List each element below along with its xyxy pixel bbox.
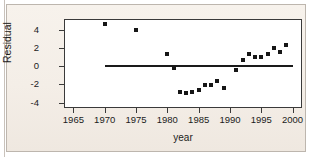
residual-plot-figure: Residual 420-2-4 19651970197519801985199…	[0, 0, 314, 157]
data-point	[209, 83, 213, 87]
data-point	[253, 55, 257, 59]
data-point	[241, 58, 245, 62]
data-point	[266, 52, 270, 56]
data-point	[272, 46, 276, 50]
data-point	[203, 83, 207, 87]
data-point	[103, 22, 107, 26]
y-tick-label: 2	[34, 43, 39, 53]
x-tick	[105, 108, 106, 113]
data-point	[234, 68, 238, 72]
x-tick	[261, 108, 262, 113]
x-tick	[199, 108, 200, 113]
data-point	[259, 55, 263, 59]
figure-panel: Residual 420-2-4 19651970197519801985199…	[6, 4, 306, 152]
x-tick	[73, 108, 74, 113]
x-tick	[136, 108, 137, 113]
x-tick	[230, 108, 231, 113]
data-point	[165, 52, 169, 56]
x-tick	[167, 108, 168, 113]
data-point	[247, 52, 251, 56]
data-point	[134, 28, 138, 32]
data-point	[197, 88, 201, 92]
plot-area	[64, 19, 302, 108]
y-tick-label: 0	[34, 61, 39, 71]
data-point	[190, 90, 194, 94]
data-point	[222, 86, 226, 90]
y-tick-label: -2	[31, 79, 39, 89]
y-tick-label: -4	[31, 98, 39, 108]
y-tick-label: 4	[34, 25, 39, 35]
data-point	[278, 50, 282, 54]
data-point	[284, 43, 288, 47]
x-tick-label: 2000	[273, 115, 313, 125]
zero-reference-line	[105, 65, 293, 67]
data-point	[178, 90, 182, 94]
data-point	[172, 66, 176, 70]
x-tick	[293, 108, 294, 113]
y-axis-title: Residual	[1, 22, 13, 63]
data-point	[184, 91, 188, 95]
data-point	[215, 79, 219, 83]
x-axis-title: year	[64, 132, 302, 143]
